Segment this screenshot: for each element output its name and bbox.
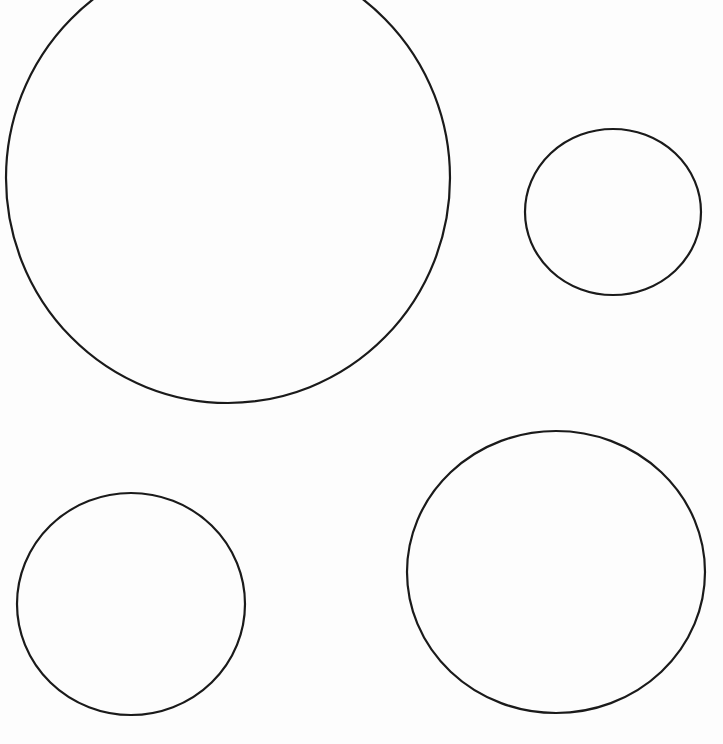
circle-medium-bottom-left xyxy=(17,493,245,715)
circles-diagram xyxy=(0,0,723,744)
circle-large-bottom-right xyxy=(407,431,705,713)
circle-small-top-right xyxy=(525,129,701,295)
circle-large-top-left xyxy=(6,0,450,403)
diagram-page xyxy=(0,0,723,744)
